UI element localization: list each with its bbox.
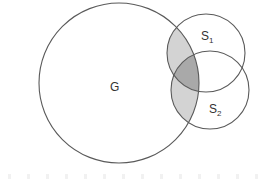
label-s1-main: S	[201, 29, 209, 43]
cropped-caption-remnant	[0, 174, 264, 179]
label-g: G	[110, 80, 119, 94]
label-s2-main: S	[209, 102, 217, 116]
label-s2-sub: 2	[217, 109, 222, 118]
venn-diagram: G S1 S2	[0, 0, 264, 179]
label-s2: S2	[209, 102, 222, 118]
label-s1-sub: 1	[209, 36, 214, 45]
label-s1: S1	[201, 29, 214, 45]
